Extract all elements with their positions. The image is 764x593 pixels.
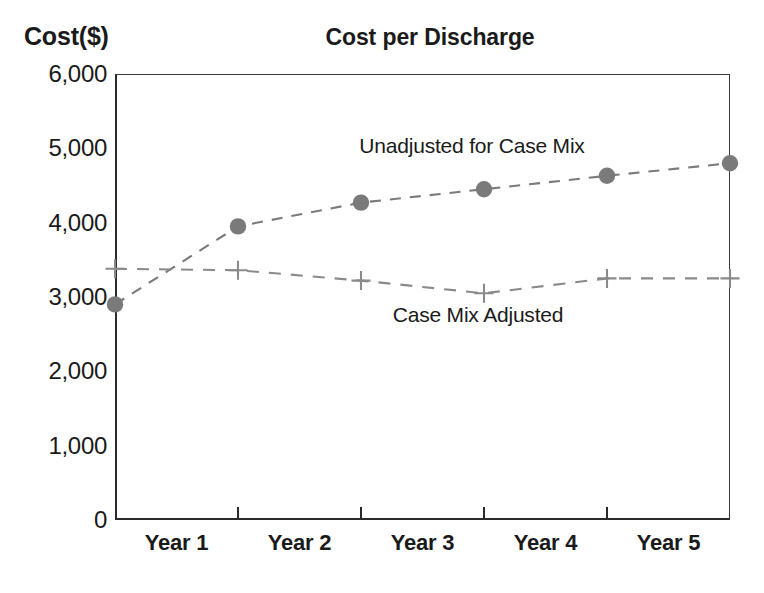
chart-figure: Cost($) Cost per Discharge 01,0002,0003,… (0, 0, 764, 593)
x-tick-label: Year 5 (637, 530, 701, 556)
y-tick-label: 5,000 (15, 134, 107, 162)
x-axis-tick-labels: Year 1Year 2Year 3Year 4Year 5 (115, 530, 730, 570)
x-tick-label: Year 1 (145, 530, 209, 556)
y-tick-label: 4,000 (15, 209, 107, 237)
series-label-case-mix-adjusted: Case Mix Adjusted (393, 303, 564, 327)
y-tick-label: 2,000 (15, 357, 107, 385)
x-tick-label: Year 2 (268, 530, 332, 556)
series-label-unadjusted: Unadjusted for Case Mix (359, 134, 584, 158)
y-tick-label: 1,000 (15, 432, 107, 460)
y-axis-tick-labels: 01,0002,0003,0004,0005,0006,000 (0, 0, 107, 593)
y-tick-label: 0 (15, 506, 107, 534)
chart-title: Cost per Discharge (270, 24, 590, 51)
y-tick-label: 6,000 (15, 60, 107, 88)
x-tick-label: Year 3 (391, 530, 455, 556)
y-tick-label: 3,000 (15, 283, 107, 311)
x-tick-label: Year 4 (514, 530, 578, 556)
